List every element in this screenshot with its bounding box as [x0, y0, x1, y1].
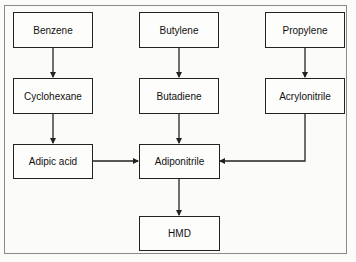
node-label: Butadiene — [156, 91, 201, 102]
node-butylene: Butylene — [139, 12, 219, 48]
node-acrylonitrile: Acrylonitrile — [265, 78, 345, 114]
node-label: Cyclohexane — [24, 91, 82, 102]
node-cyclohexane: Cyclohexane — [13, 78, 93, 114]
node-propylene: Propylene — [265, 12, 345, 48]
node-adiponitrile: Adiponitrile — [139, 144, 220, 179]
node-label: Benzene — [33, 25, 72, 36]
node-label: Butylene — [160, 25, 199, 36]
node-butadiene: Butadiene — [139, 78, 219, 114]
node-label: Adipic acid — [29, 156, 77, 167]
node-benzene: Benzene — [13, 12, 93, 48]
node-label: Acrylonitrile — [279, 91, 331, 102]
arrow-acrylonitrile-adiponitrile — [220, 113, 305, 161]
node-hmd: HMD — [139, 216, 220, 251]
node-label: Propylene — [282, 25, 327, 36]
node-label: HMD — [168, 228, 191, 239]
node-adipic-acid: Adipic acid — [13, 144, 93, 179]
node-label: Adiponitrile — [155, 156, 204, 167]
